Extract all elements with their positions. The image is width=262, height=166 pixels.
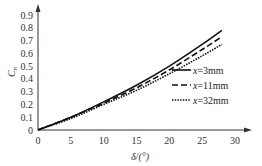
x-tick-label: 0	[36, 135, 41, 146]
y-tick-label: 0.6	[21, 48, 34, 59]
x-tick-label: 5	[68, 135, 73, 146]
x-ticks: 051015202530	[36, 135, 241, 146]
y-axis-label-sub: n	[11, 66, 19, 70]
y-tick-label: 0.8	[21, 22, 34, 33]
x-tick-label: 10	[99, 135, 109, 146]
x-axis-arrow	[244, 128, 252, 133]
y-tick-label: 0.9	[21, 10, 34, 21]
y-tick-label: 0.3	[21, 86, 34, 97]
legend-label: x=3mm	[192, 65, 224, 76]
legend-label: x=32mm	[192, 95, 229, 106]
y-tick-label: 0.7	[21, 35, 34, 46]
x-tick-label: 15	[132, 135, 142, 146]
y-tick-label: 0.5	[21, 61, 34, 72]
y-axis-arrow	[36, 4, 41, 12]
x-tick-label: 25	[197, 135, 207, 146]
y-tick-label: 0.1	[21, 112, 34, 123]
y-ticks: 00.10.20.30.40.50.60.70.80.9	[21, 10, 34, 136]
y-tick-label: 0.2	[21, 99, 34, 110]
legend-label: x=11mm	[192, 80, 229, 91]
y-tick-label: 0	[28, 125, 33, 136]
y-axis-label: Cn	[6, 66, 19, 77]
chart: 00.10.20.30.40.50.60.70.80.9 05101520253…	[0, 0, 262, 166]
y-tick-label: 0.4	[21, 73, 34, 84]
x-tick-label: 30	[230, 135, 240, 146]
x-axis-label: δ/(°)	[131, 151, 150, 163]
x-tick-label: 20	[164, 135, 174, 146]
legend: x=3mmx=11mmx=32mm	[172, 65, 229, 106]
